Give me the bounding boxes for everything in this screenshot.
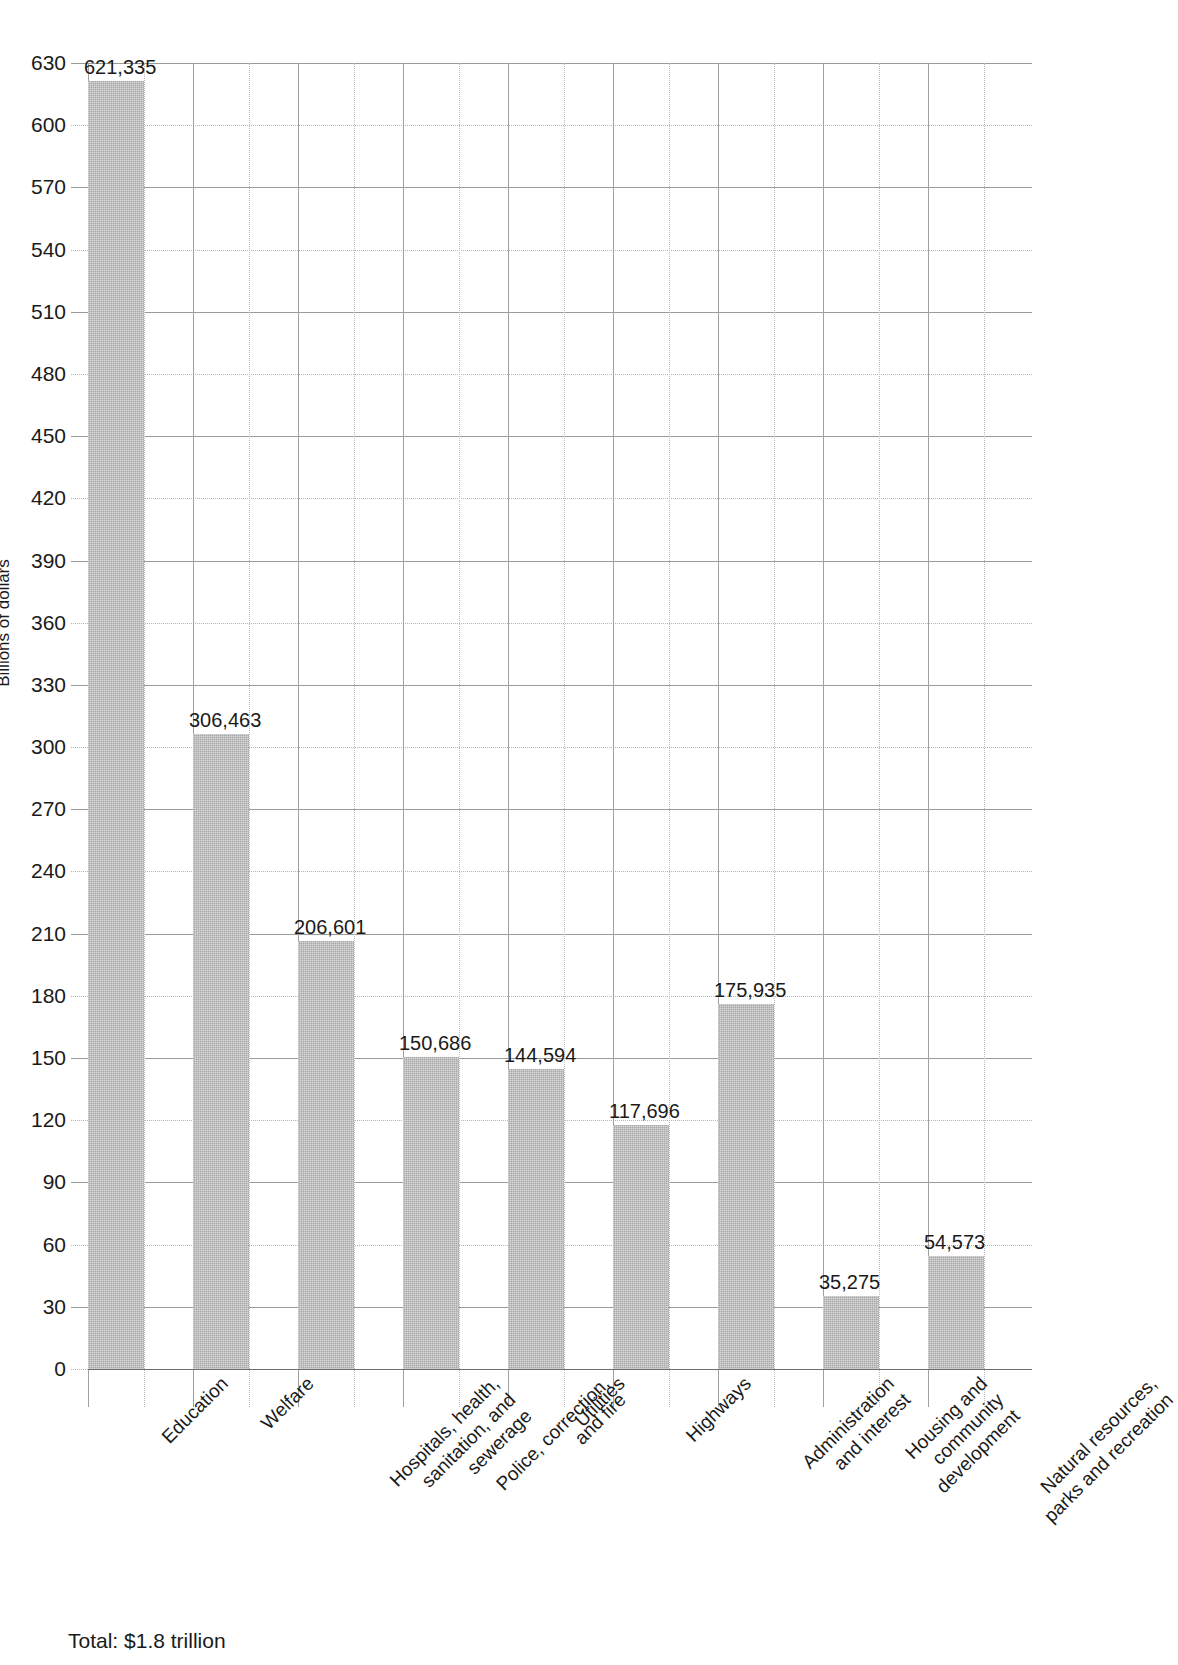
y-tick-label-630: 630 — [4, 52, 66, 73]
bar-6 — [718, 1004, 774, 1369]
gridline-x-4-1 — [564, 63, 565, 1369]
y-tick-lead-0 — [71, 1369, 88, 1370]
y-tick-lead-150 — [71, 1058, 88, 1059]
bar-value-label-8: 54,573 — [924, 1232, 985, 1252]
y-tick-label-240: 240 — [4, 860, 66, 881]
bar-value-label-3: 150,686 — [399, 1033, 471, 1053]
bar-2 — [298, 941, 354, 1369]
y-tick-lead-420 — [71, 498, 88, 499]
y-tick-lead-480 — [71, 374, 88, 375]
bar-8 — [928, 1256, 984, 1369]
gridline-x-3-1 — [459, 63, 460, 1369]
y-tick-lead-210 — [71, 934, 88, 935]
y-tick-label-60: 60 — [4, 1234, 66, 1255]
y-tick-label-480: 480 — [4, 363, 66, 384]
y-tick-lead-180 — [71, 996, 88, 997]
bar-value-label-5: 117,696 — [609, 1101, 680, 1121]
y-tick-lead-240 — [71, 871, 88, 872]
gridline-y-600 — [88, 125, 1032, 126]
y-tick-lead-30 — [71, 1307, 88, 1308]
x-axis-label-1: Welfare — [256, 1372, 318, 1434]
bar-5 — [613, 1125, 669, 1369]
bar-value-label-7: 35,275 — [819, 1272, 880, 1292]
y-tick-label-510: 510 — [4, 301, 66, 322]
y-tick-lead-270 — [71, 809, 88, 810]
gridline-y-480 — [88, 374, 1032, 375]
y-tick-lead-450 — [71, 436, 88, 437]
bar-value-label-0: 621,335 — [84, 57, 156, 77]
x-axis-label-7: Housing and community development — [899, 1372, 1025, 1498]
x-axis-label-5: Highways — [681, 1372, 756, 1447]
y-tick-label-450: 450 — [4, 425, 66, 446]
bar-4 — [508, 1069, 564, 1369]
gridline-y-450 — [88, 436, 1032, 437]
gridline-y-420 — [88, 498, 1032, 499]
y-tick-lead-120 — [71, 1120, 88, 1121]
y-tick-lead-90 — [71, 1182, 88, 1183]
y-tick-label-30: 30 — [4, 1296, 66, 1317]
plot-area: 6306005705405104804504203903603303002702… — [88, 63, 1032, 1369]
gridline-x-0-1 — [144, 63, 145, 1369]
bar-value-label-1: 306,463 — [189, 710, 261, 730]
gridline-x-7-0 — [823, 63, 824, 1369]
y-tick-lead-570 — [71, 187, 88, 188]
x-axis-category-labels: EducationWelfareHospitals, health, sanit… — [88, 1372, 1032, 1662]
y-tick-label-180: 180 — [4, 985, 66, 1006]
gridline-y-570 — [88, 187, 1032, 188]
gridline-y-630 — [88, 63, 1032, 64]
y-tick-label-270: 270 — [4, 798, 66, 819]
gridline-x-7-1 — [879, 63, 880, 1369]
y-tick-label-300: 300 — [4, 736, 66, 757]
gridline-x-8-1 — [984, 63, 985, 1369]
y-tick-label-150: 150 — [4, 1047, 66, 1068]
gridline-x-5-1 — [669, 63, 670, 1369]
y-tick-label-0: 0 — [4, 1358, 66, 1379]
bar-value-label-2: 206,601 — [294, 917, 366, 937]
gridline-y-390 — [88, 561, 1032, 562]
y-tick-label-420: 420 — [4, 487, 66, 508]
gridline-y-360 — [88, 623, 1032, 624]
x-axis-line — [88, 1369, 1032, 1370]
x-axis-label-8: Natural resources, parks and recreation — [1023, 1372, 1178, 1527]
y-tick-lead-600 — [71, 125, 88, 126]
total-footnote: Total: $1.8 trillion — [68, 1629, 226, 1653]
y-tick-lead-330 — [71, 685, 88, 686]
y-tick-label-120: 120 — [4, 1109, 66, 1130]
y-tick-lead-300 — [71, 747, 88, 748]
gridline-x-8-0 — [928, 63, 929, 1369]
bar-1 — [193, 734, 249, 1369]
gridline-x-6-1 — [774, 63, 775, 1369]
y-tick-label-210: 210 — [4, 923, 66, 944]
bar-7 — [823, 1296, 879, 1369]
y-tick-label-600: 600 — [4, 114, 66, 135]
gridline-x-2-1 — [354, 63, 355, 1369]
y-tick-lead-540 — [71, 250, 88, 251]
x-axis-label-6: Administration and interest — [797, 1372, 915, 1490]
y-tick-lead-60 — [71, 1245, 88, 1246]
bar-0 — [88, 81, 144, 1369]
y-tick-lead-510 — [71, 312, 88, 313]
x-axis-label-0: Education — [157, 1372, 233, 1448]
gridline-y-330 — [88, 685, 1032, 686]
y-axis-title-text: Billions of dollars — [0, 559, 14, 687]
y-tick-label-540: 540 — [4, 239, 66, 260]
y-tick-lead-390 — [71, 561, 88, 562]
y-tick-label-570: 570 — [4, 176, 66, 197]
bar-3 — [403, 1057, 459, 1369]
bar-value-label-6: 175,935 — [714, 980, 786, 1000]
gridline-y-540 — [88, 250, 1032, 251]
y-tick-lead-360 — [71, 623, 88, 624]
y-tick-label-90: 90 — [4, 1171, 66, 1192]
bar-value-label-4: 144,594 — [504, 1045, 576, 1065]
gridline-y-510 — [88, 312, 1032, 313]
